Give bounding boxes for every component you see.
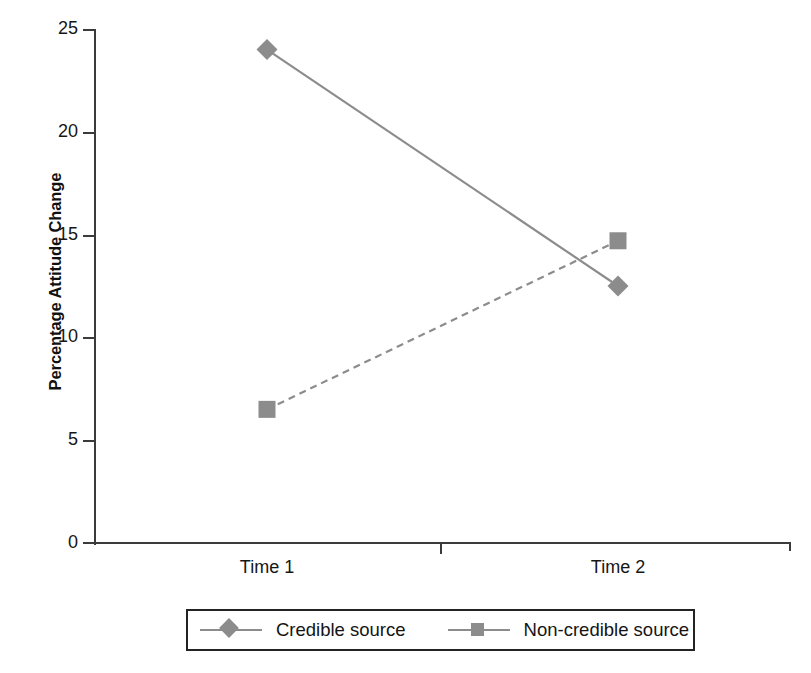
y-axis-line bbox=[94, 29, 96, 545]
y-tick-label-10: 10 bbox=[4, 327, 78, 345]
y-tick-label-25: 25 bbox=[4, 19, 78, 37]
series-line-0 bbox=[267, 50, 618, 286]
legend-label-credible-source: Credible source bbox=[276, 619, 406, 641]
y-tick-mark-0 bbox=[83, 542, 94, 544]
diamond-marker-icon bbox=[200, 619, 262, 641]
x-axis-line bbox=[94, 542, 791, 544]
y-tick-mark-25 bbox=[83, 29, 94, 31]
chart-legend: Credible source Non-credible source bbox=[186, 609, 695, 651]
y-axis-title: Percentage Attitude Change bbox=[46, 132, 65, 432]
legend-item-non-credible-source: Non-credible source bbox=[448, 611, 690, 649]
series-line-1 bbox=[267, 241, 618, 410]
data-point-1-0 bbox=[259, 401, 276, 418]
y-tick-label-20: 20 bbox=[4, 122, 78, 140]
y-tick-label-15: 15 bbox=[4, 225, 78, 243]
y-tick-label-0: 0 bbox=[4, 533, 78, 551]
data-point-0-1 bbox=[608, 276, 629, 297]
y-tick-mark-10 bbox=[83, 337, 94, 339]
y-tick-mark-5 bbox=[83, 440, 94, 442]
y-tick-mark-20 bbox=[83, 132, 94, 134]
data-point-0-0 bbox=[257, 39, 278, 60]
legend-label-non-credible-source: Non-credible source bbox=[524, 619, 690, 641]
square-marker-icon bbox=[448, 619, 510, 641]
legend-item-credible-source: Credible source bbox=[200, 611, 406, 649]
x-tick-mark-center bbox=[440, 544, 442, 554]
y-tick-mark-15 bbox=[83, 235, 94, 237]
line-chart: Percentage Attitude Change 25 20 15 10 5… bbox=[0, 0, 811, 673]
x-tick-label-time-2: Time 2 bbox=[538, 557, 698, 578]
x-tick-label-time-1: Time 1 bbox=[187, 557, 347, 578]
data-point-1-1 bbox=[610, 232, 627, 249]
y-tick-label-5: 5 bbox=[4, 430, 78, 448]
x-axis-end-cap bbox=[789, 542, 791, 551]
